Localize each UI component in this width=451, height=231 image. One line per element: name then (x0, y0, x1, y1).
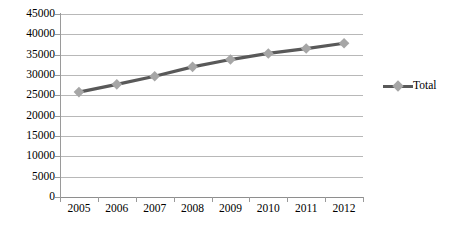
legend-marker-total (383, 80, 413, 92)
x-axis-tick-mark (60, 197, 61, 202)
data-point-marker (112, 79, 123, 90)
data-point-marker (225, 54, 236, 65)
data-point-marker (301, 43, 312, 54)
y-axis-tick-mark (55, 75, 60, 76)
y-axis-tick-mark (55, 55, 60, 56)
legend-label-total: Total (413, 80, 436, 92)
data-point-marker (339, 38, 350, 49)
x-axis-tick-mark (212, 197, 213, 202)
x-axis-tick-mark (287, 197, 288, 202)
series-total (0, 0, 451, 231)
x-axis-tick-mark (325, 197, 326, 202)
x-axis-tick-mark (249, 197, 250, 202)
data-point-marker (187, 62, 198, 73)
x-axis-tick-mark (174, 197, 175, 202)
y-axis-tick-mark (55, 14, 60, 15)
line-chart: 0500010000150002000025000300003500040000… (0, 0, 451, 231)
y-axis-tick-mark (55, 156, 60, 157)
x-axis-tick-mark (363, 197, 364, 202)
y-axis-tick-mark (55, 95, 60, 96)
data-point-marker (263, 48, 274, 59)
y-axis-tick-mark (55, 34, 60, 35)
x-axis-tick-mark (136, 197, 137, 202)
y-axis-tick-mark (55, 136, 60, 137)
data-point-marker (74, 87, 85, 98)
x-axis-tick-mark (98, 197, 99, 202)
legend: Total (383, 80, 436, 92)
y-axis-tick-mark (55, 116, 60, 117)
y-axis-tick-mark (55, 177, 60, 178)
data-point-marker (149, 71, 160, 82)
legend-diamond-icon (392, 80, 403, 91)
